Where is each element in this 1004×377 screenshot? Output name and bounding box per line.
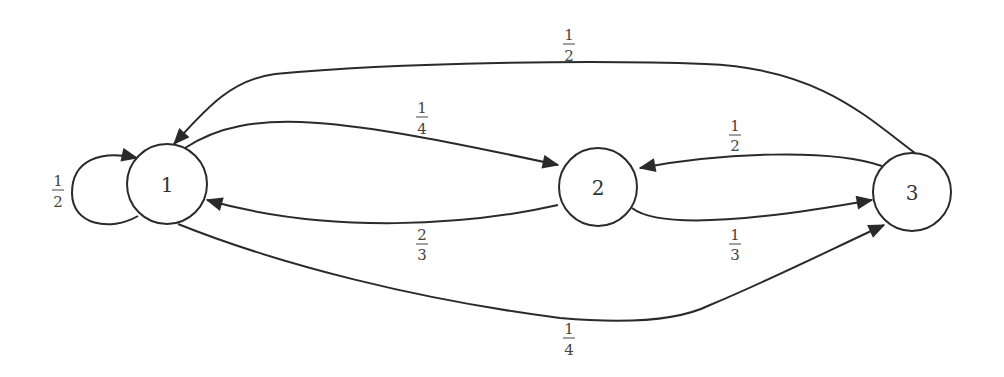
svg-text:2: 2	[564, 47, 574, 65]
svg-text:1: 1	[564, 26, 574, 44]
svg-text:2: 2	[730, 137, 740, 155]
svg-text:2: 2	[53, 193, 63, 211]
svg-text:4: 4	[564, 341, 574, 359]
prob-label-1-3: 1 4	[563, 320, 575, 359]
state-node-3: 3	[873, 153, 951, 231]
svg-text:3: 3	[417, 246, 427, 264]
edge-3-to-1	[174, 62, 915, 153]
prob-label-2-1: 2 3	[416, 226, 428, 264]
edge-2-to-1	[207, 200, 558, 223]
state-node-1: 1	[127, 144, 207, 224]
state-label-1: 1	[161, 173, 174, 197]
edge-1-to-3	[178, 224, 884, 321]
svg-text:3: 3	[730, 246, 740, 264]
svg-text:1: 1	[417, 99, 427, 117]
prob-label-1-1: 1 2	[52, 172, 64, 211]
edge-2-to-3	[632, 200, 872, 220]
prob-label-2-3: 1 3	[729, 226, 741, 264]
state-node-2: 2	[559, 148, 637, 226]
state-label-2: 2	[592, 176, 605, 200]
svg-text:1: 1	[53, 172, 63, 190]
svg-text:1: 1	[730, 117, 740, 135]
prob-label-1-2: 1 4	[416, 99, 428, 138]
prob-label-3-1: 1 2	[563, 26, 575, 65]
edge-1-to-2	[185, 122, 558, 165]
prob-label-3-2: 1 2	[729, 117, 741, 155]
svg-text:4: 4	[417, 120, 427, 138]
svg-text:1: 1	[564, 320, 574, 338]
svg-text:1: 1	[730, 226, 740, 244]
state-label-3: 3	[906, 181, 919, 205]
markov-chain-diagram: 1 2 3 1 2 1 4 2 3 1 2 1 3 1 2 1 4	[0, 0, 1004, 377]
edge-3-to-2	[640, 154, 882, 168]
svg-text:2: 2	[417, 226, 427, 244]
